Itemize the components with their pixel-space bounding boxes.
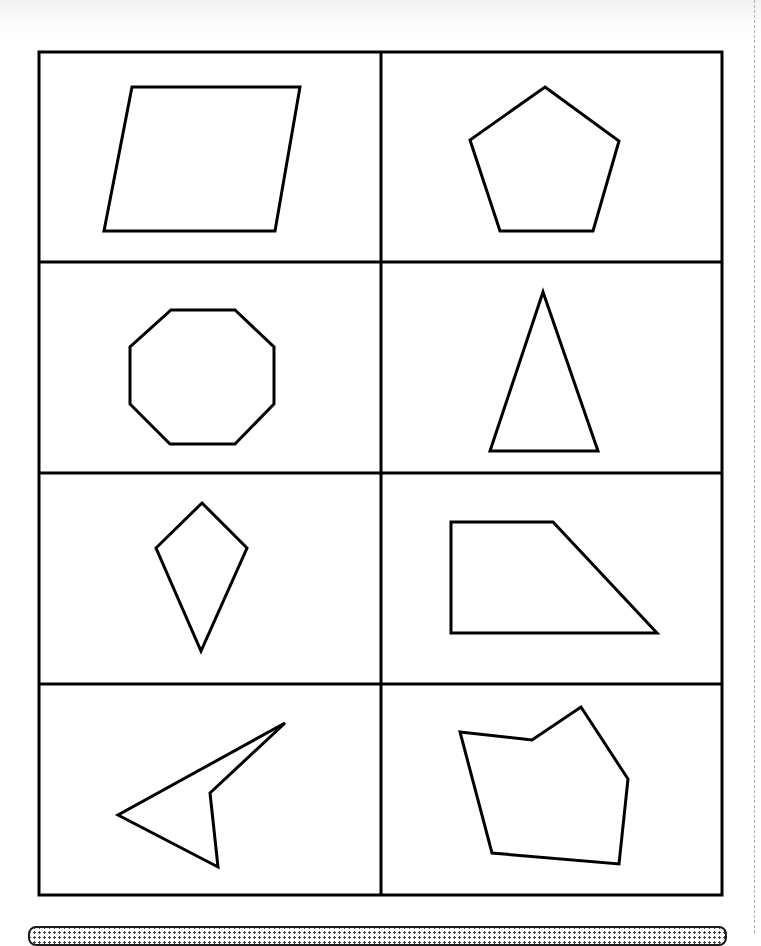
dotted-answer-strip xyxy=(28,926,727,946)
shape-kite xyxy=(156,503,247,651)
shape-dart xyxy=(118,723,285,867)
shape-parallelogram xyxy=(104,87,300,231)
shape-trapezoid xyxy=(451,522,657,633)
shape-irregular-hexagon xyxy=(460,707,628,864)
shape-triangle xyxy=(490,292,598,451)
dashed-cut-line xyxy=(754,0,755,933)
shape-octagon xyxy=(130,310,274,444)
shape-pentagon xyxy=(470,87,619,231)
